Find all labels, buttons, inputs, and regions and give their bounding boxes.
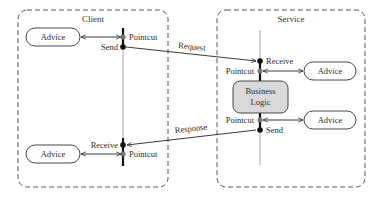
service-send-dot [257,127,263,133]
service-receive-dot [257,58,263,64]
service-advice-bottom-label: Advice [318,115,343,125]
client-pointcut-bottom-dot [120,151,125,156]
client-advice-top-label: Advice [41,32,66,42]
client-pointcut-bottom-label: Pointcut [129,149,158,159]
request-label: Request [178,40,207,53]
service-title: Service [278,14,305,24]
service-container: Service Receive Pointcut Advice Business… [217,10,365,187]
client-send-dot [120,44,126,50]
service-pointcut-bottom-label: Pointcut [226,115,255,125]
client-receive-dot [120,142,126,148]
response-label: Response [174,122,208,135]
service-pointcut-top-dot [257,68,262,73]
client-receive-label: Receive [91,140,119,150]
business-logic-line1: Business [245,86,275,96]
service-pointcut-top-label: Pointcut [226,66,255,76]
client-send-label: Send [101,42,119,52]
service-advice-top-label: Advice [318,66,343,76]
business-logic-line2: Logic [251,97,271,107]
client-container: Client Advice Pointcut Send Receive Poin… [18,10,168,187]
service-send-label: Send [266,125,284,135]
client-pointcut-top-label: Pointcut [129,32,158,42]
service-receive-label: Receive [266,56,294,66]
client-title: Client [82,14,104,24]
client-pointcut-top-dot [120,34,125,39]
client-service-aop-diagram: Client Advice Pointcut Send Receive Poin… [0,0,382,199]
client-advice-bottom-label: Advice [41,149,66,159]
service-pointcut-bottom-dot [257,117,262,122]
